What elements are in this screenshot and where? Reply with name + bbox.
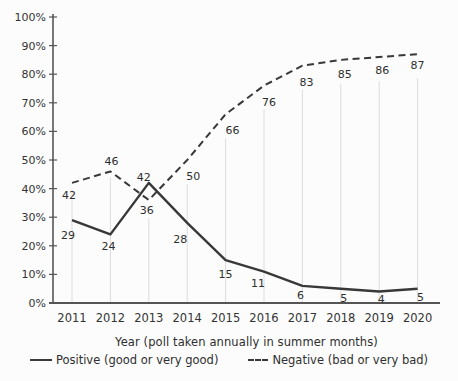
y-tick-label: 90%: [22, 40, 46, 53]
legend-item-negative: Negative (bad or very bad): [248, 353, 428, 367]
y-tick-label: 20%: [22, 240, 46, 253]
x-tick-label: 2015: [211, 311, 240, 325]
solid-line-swatch: [30, 359, 52, 361]
legend: Positive (good or very good) Negative (b…: [0, 353, 458, 367]
x-tick-label: 2020: [403, 311, 432, 325]
y-tick-label: 30%: [22, 211, 46, 224]
y-tick-label: 60%: [22, 125, 46, 138]
data-label: 36: [140, 204, 154, 217]
x-tick-label: 2018: [326, 311, 355, 325]
data-label: 42: [137, 171, 151, 184]
data-label: 29: [61, 229, 75, 242]
data-label: 15: [219, 268, 233, 281]
x-axis-title: Year (poll taken annually in summer mont…: [53, 335, 440, 349]
series-line-positive: [72, 183, 418, 292]
data-label: 4: [378, 293, 385, 306]
gridlines: [72, 78, 418, 302]
x-tick-label: 2019: [365, 311, 394, 325]
data-label: 11: [251, 277, 265, 290]
x-tick-label: 2011: [57, 311, 86, 325]
y-tick-label: 70%: [22, 97, 46, 110]
x-tick-label: 2013: [134, 311, 163, 325]
data-label: 87: [411, 59, 425, 72]
y-tick-label: 40%: [22, 183, 46, 196]
data-label: 66: [226, 124, 240, 137]
data-label: 24: [101, 240, 115, 253]
data-label: 86: [375, 64, 389, 77]
data-label: 5: [340, 292, 347, 305]
y-tick-label: 10%: [22, 268, 46, 281]
data-label: 5: [417, 291, 424, 304]
data-label: 76: [262, 96, 276, 109]
data-label: 42: [62, 189, 76, 202]
x-tick-label: 2014: [173, 311, 202, 325]
x-tick-label: 2017: [288, 311, 317, 325]
y-tick-label: 80%: [22, 68, 46, 81]
legend-label-positive: Positive (good or very good): [56, 353, 218, 367]
legend-item-positive: Positive (good or very good): [30, 353, 218, 367]
y-tick-label: 100%: [15, 11, 46, 24]
series-line-negative: [72, 54, 418, 200]
data-label: 28: [173, 233, 187, 246]
line-chart: 0%10%20%30%40%50%60%70%80%90%100%2011201…: [0, 0, 458, 381]
x-tick-label: 2016: [249, 311, 278, 325]
data-label: 83: [299, 76, 313, 89]
plot-area: 0%10%20%30%40%50%60%70%80%90%100%2011201…: [0, 0, 458, 345]
x-axis-ticks: 2011201220132014201520162017201820192020: [57, 311, 432, 325]
data-label: 46: [104, 155, 118, 168]
data-labels-positive: 2924422815116545: [61, 171, 424, 306]
data-label: 6: [297, 289, 304, 302]
y-axis-ticks: 0%10%20%30%40%50%60%70%80%90%100%: [15, 11, 57, 310]
data-label: 85: [338, 68, 352, 81]
dashed-line-swatch: [248, 359, 268, 361]
legend-label-negative: Negative (bad or very bad): [272, 353, 428, 367]
x-tick-label: 2012: [96, 311, 125, 325]
data-labels-negative: 42463650667683858687: [62, 59, 425, 217]
y-tick-label: 50%: [22, 154, 46, 167]
data-label: 50: [186, 170, 200, 183]
y-tick-label: 0%: [29, 297, 46, 310]
